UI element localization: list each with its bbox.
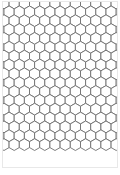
bottom-margin bbox=[0, 168, 120, 175]
hexagon-cell bbox=[30, 139, 40, 151]
page-canvas bbox=[0, 0, 120, 175]
hexagon-cell bbox=[91, 139, 101, 151]
hexagon-tessellation-pattern bbox=[3, 2, 118, 168]
hexagon-cell bbox=[60, 139, 70, 151]
hexagon-cell bbox=[70, 139, 80, 151]
hexagon-cell bbox=[19, 139, 29, 151]
hexagon-cell bbox=[81, 139, 91, 151]
hexagon-cell bbox=[50, 139, 60, 151]
hexagon-cell bbox=[101, 139, 111, 151]
pattern-sheet bbox=[2, 1, 118, 168]
hexagon-cell bbox=[40, 139, 50, 151]
hexagon-cell bbox=[9, 139, 19, 151]
